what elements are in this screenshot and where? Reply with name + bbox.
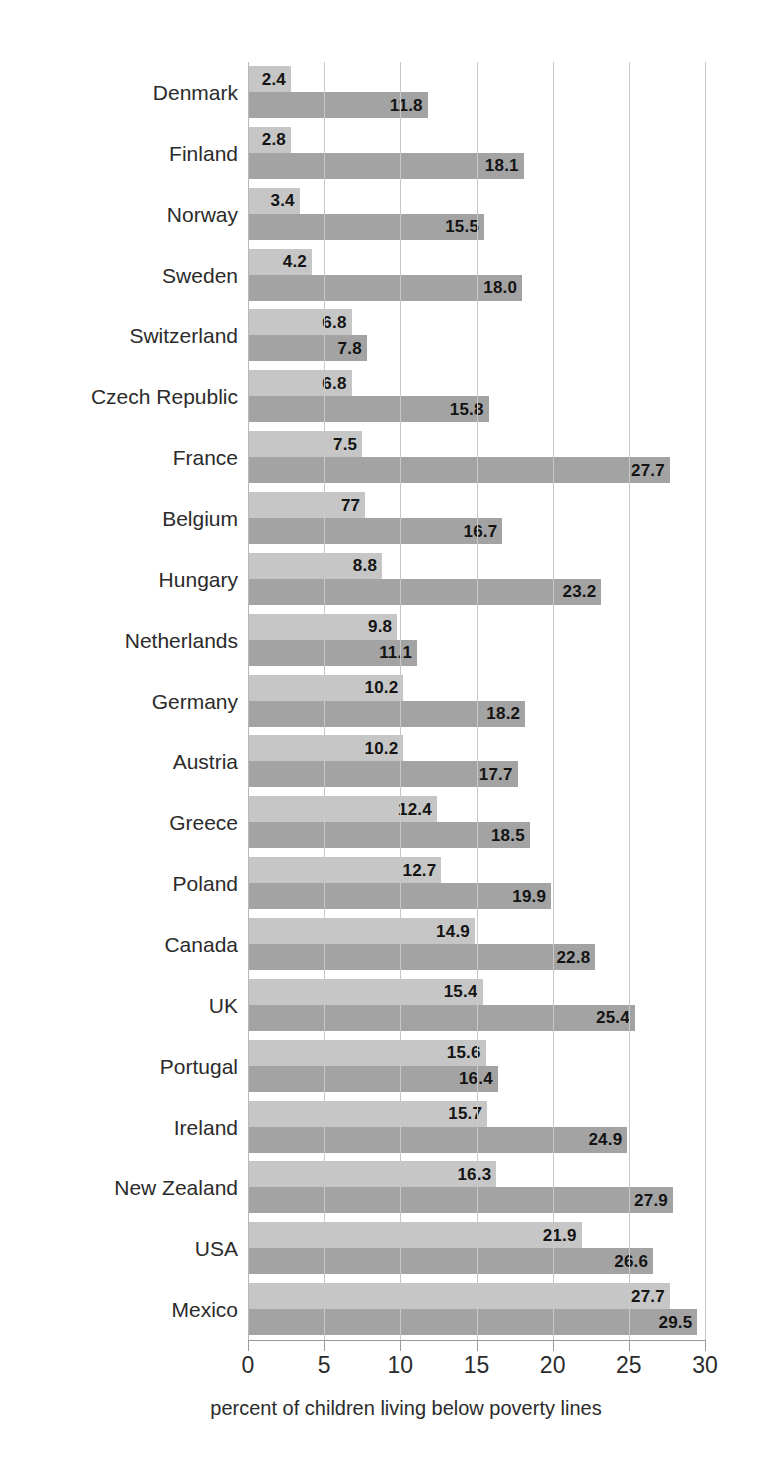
x-axis-title-text: percent of children living below poverty… <box>210 1397 601 1419</box>
bar-value-label: 9.8 <box>368 618 392 635</box>
bar-value-label: 4.2 <box>283 253 307 270</box>
bar-row: 15.616.4 <box>248 1036 705 1097</box>
category-label: Germany <box>152 691 238 712</box>
bar-row: 27.729.5 <box>248 1279 705 1340</box>
category-label: Austria <box>173 751 238 772</box>
category-label: Poland <box>173 873 238 894</box>
category-axis-labels: DenmarkFinlandNorwaySwedenSwitzerlandCze… <box>0 62 238 1340</box>
bar-value-label: 29.5 <box>658 1314 692 1331</box>
bar-value-label: 12.7 <box>403 862 437 879</box>
bar-light: 12.7 <box>248 857 441 883</box>
bar-light: 10.2 <box>248 735 403 761</box>
bar-dark: 18.1 <box>248 153 524 179</box>
bar-value-label: 6.8 <box>322 375 346 392</box>
bar-dark: 18.5 <box>248 822 530 848</box>
bar-light: 15.6 <box>248 1040 486 1066</box>
bar-value-label: 24.9 <box>588 1131 622 1148</box>
bar-dark: 18.2 <box>248 701 525 727</box>
bar-value-label: 18.5 <box>491 827 525 844</box>
bar-value-label: 3.4 <box>271 192 295 209</box>
bar-value-label: 11.8 <box>390 97 423 114</box>
bar-value-label: 19.9 <box>512 888 546 905</box>
bar-row: 15.425.4 <box>248 975 705 1036</box>
bar-value-label: 77 <box>341 497 360 514</box>
bar-row: 10.217.7 <box>248 731 705 792</box>
bar-value-label: 17.7 <box>479 766 513 783</box>
x-tick <box>324 1340 325 1351</box>
bar-value-label: 7.8 <box>338 340 362 357</box>
x-tick <box>705 1340 706 1351</box>
bar-row: 7716.7 <box>248 488 705 549</box>
bar-dark: 27.7 <box>248 457 670 483</box>
bar-dark: 15.5 <box>248 214 484 240</box>
category-label: Denmark <box>153 82 238 103</box>
bar-row: 14.922.8 <box>248 914 705 975</box>
bar-value-label: 23.2 <box>563 583 597 600</box>
category-label: Belgium <box>162 508 238 529</box>
category-label: UK <box>209 995 238 1016</box>
bar-value-label: 15.4 <box>444 983 478 1000</box>
bar-value-label: 16.3 <box>457 1166 491 1183</box>
bar-dark: 16.7 <box>248 518 502 544</box>
x-tick-label: 20 <box>540 1354 566 1377</box>
bar-value-label: 6.8 <box>322 314 346 331</box>
bar-value-label: 16.4 <box>459 1070 493 1087</box>
category-label: Ireland <box>174 1117 238 1138</box>
x-tick <box>248 1340 249 1351</box>
bar-value-label: 18.1 <box>485 157 519 174</box>
bar-row: 16.327.9 <box>248 1157 705 1218</box>
bar-row: 2.411.8 <box>248 62 705 123</box>
bar-value-label: 26.6 <box>614 1253 648 1270</box>
x-tick <box>400 1340 401 1351</box>
bar-light: 2.4 <box>248 66 291 92</box>
bar-value-label: 15.7 <box>448 1105 482 1122</box>
bar-value-label: 10.2 <box>364 740 398 757</box>
bar-row: 9.811.1 <box>248 610 705 671</box>
bar-dark: 29.5 <box>248 1309 697 1335</box>
bar-light: 10.2 <box>248 675 403 701</box>
x-tick <box>553 1340 554 1351</box>
bar-row: 6.87.8 <box>248 305 705 366</box>
bar-rows: 2.411.82.818.13.415.54.218.06.87.86.815.… <box>248 62 705 1340</box>
x-tick-label: 30 <box>692 1354 718 1377</box>
bar-row: 8.823.2 <box>248 549 705 610</box>
bar-row: 4.218.0 <box>248 245 705 306</box>
bar-row: 15.724.9 <box>248 1097 705 1158</box>
bar-dark: 25.4 <box>248 1005 635 1031</box>
x-tick-label: 15 <box>464 1354 490 1377</box>
bar-dark: 11.1 <box>248 640 417 666</box>
bar-value-label: 21.9 <box>543 1227 577 1244</box>
bar-value-label: 18.2 <box>486 705 520 722</box>
bar-light: 8.8 <box>248 553 382 579</box>
x-tick <box>629 1340 630 1351</box>
bar-value-label: 2.8 <box>262 131 286 148</box>
bar-value-label: 18.0 <box>483 279 517 296</box>
bar-dark: 19.9 <box>248 883 551 909</box>
bar-value-label: 16.7 <box>464 523 498 540</box>
bar-light: 7.5 <box>248 431 362 457</box>
bar-light: 77 <box>248 492 365 518</box>
x-tick-label: 25 <box>616 1354 642 1377</box>
bar-dark: 24.9 <box>248 1127 627 1153</box>
bar-dark: 18.0 <box>248 275 522 301</box>
bar-light: 6.8 <box>248 370 352 396</box>
bar-light: 15.4 <box>248 979 483 1005</box>
gridline-30 <box>705 62 706 1340</box>
bar-light: 27.7 <box>248 1283 670 1309</box>
bar-value-label: 8.8 <box>353 557 377 574</box>
bar-dark: 7.8 <box>248 335 367 361</box>
bar-light: 2.8 <box>248 127 291 153</box>
bar-dark: 15.8 <box>248 396 489 422</box>
bar-light: 12.4 <box>248 796 437 822</box>
bar-row: 12.719.9 <box>248 853 705 914</box>
bar-value-label: 7.5 <box>333 436 357 453</box>
bar-row: 21.926.6 <box>248 1218 705 1279</box>
bar-value-label: 27.7 <box>631 1288 665 1305</box>
bar-value-label: 14.9 <box>436 923 470 940</box>
bar-value-label: 27.9 <box>634 1192 668 1209</box>
category-label: Finland <box>169 143 238 164</box>
bar-value-label: 22.8 <box>556 949 590 966</box>
plot-area: 2.411.82.818.13.415.54.218.06.87.86.815.… <box>248 62 705 1340</box>
bar-light: 16.3 <box>248 1161 496 1187</box>
bar-row: 12.418.5 <box>248 792 705 853</box>
